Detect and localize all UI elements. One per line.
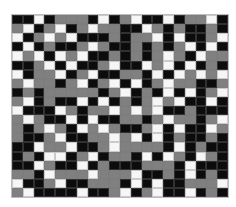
grid-cell <box>98 170 109 179</box>
grid-cell <box>185 79 196 88</box>
grid-cell <box>163 70 174 79</box>
grid-cell <box>23 33 34 42</box>
grid-cell <box>152 161 163 170</box>
grid-cell <box>66 179 77 188</box>
grid-cell <box>152 15 163 24</box>
grid-cell <box>217 79 228 88</box>
grid-cell <box>55 188 66 197</box>
grid-cell <box>131 133 142 142</box>
grid-cell <box>174 124 185 133</box>
grid-cell <box>109 88 120 97</box>
grid-cell <box>55 33 66 42</box>
grid-cell <box>142 42 153 51</box>
grid-cell <box>120 133 131 142</box>
grid-cell <box>163 188 174 197</box>
grid-cell <box>174 142 185 151</box>
grid-cell <box>88 70 99 79</box>
grid-cell <box>206 124 217 133</box>
grid-cell <box>185 161 196 170</box>
grid-cell <box>206 24 217 33</box>
grid-cell <box>98 133 109 142</box>
grid-cell <box>120 42 131 51</box>
grid-cell <box>34 88 45 97</box>
grid-cell <box>163 179 174 188</box>
grid-cell <box>66 133 77 142</box>
grid-cell <box>120 142 131 151</box>
grid-cell <box>152 51 163 60</box>
grid-cell <box>88 188 99 197</box>
grid-cell <box>196 106 207 115</box>
grid-cell <box>142 161 153 170</box>
grid-cell <box>55 179 66 188</box>
grid-cell <box>77 124 88 133</box>
grid-cell <box>55 115 66 124</box>
grid-cell <box>120 115 131 124</box>
grid-cell <box>98 24 109 33</box>
grid-cell <box>152 88 163 97</box>
grid-cell <box>12 115 23 124</box>
grid-cell <box>152 106 163 115</box>
grid-cell <box>77 24 88 33</box>
grid-cell <box>196 24 207 33</box>
grid-cell <box>185 106 196 115</box>
grid-cell <box>174 133 185 142</box>
grid-cell <box>66 161 77 170</box>
grid-cell <box>206 161 217 170</box>
grid-cell <box>23 24 34 33</box>
grid-cell <box>44 115 55 124</box>
grid-cell <box>23 42 34 51</box>
grid-cell <box>120 33 131 42</box>
grid-cell <box>120 88 131 97</box>
grid-cell <box>206 70 217 79</box>
grid-cell <box>109 152 120 161</box>
grid-cell <box>196 179 207 188</box>
grid-cell <box>88 179 99 188</box>
grid-cell <box>142 188 153 197</box>
grid-cell <box>152 70 163 79</box>
grid-cell <box>185 61 196 70</box>
grid-cell <box>196 133 207 142</box>
grid-cell <box>217 188 228 197</box>
grid-cell <box>217 24 228 33</box>
grid-cell <box>109 179 120 188</box>
grid-cell <box>44 152 55 161</box>
grid-cell <box>163 15 174 24</box>
grid-cell <box>174 170 185 179</box>
grid-cell <box>217 106 228 115</box>
grid-cell <box>88 61 99 70</box>
grid-cell <box>185 170 196 179</box>
grid-cell <box>217 51 228 60</box>
grid-cell <box>206 33 217 42</box>
grid-cell <box>66 15 77 24</box>
grid-cell <box>77 106 88 115</box>
grid-cell <box>217 33 228 42</box>
grid-cell <box>12 179 23 188</box>
grid-cell <box>44 24 55 33</box>
grid-cell <box>12 170 23 179</box>
grid-cell <box>174 115 185 124</box>
grid-cell <box>120 70 131 79</box>
grid-cell <box>196 170 207 179</box>
grid-cell <box>163 61 174 70</box>
grid-cell <box>88 142 99 151</box>
grid-cell <box>34 106 45 115</box>
grid-cell <box>66 97 77 106</box>
grid-cell <box>131 42 142 51</box>
grid-cell <box>12 24 23 33</box>
grid-cell <box>77 188 88 197</box>
grid-cell <box>66 188 77 197</box>
grid-cell <box>163 161 174 170</box>
grid-cell <box>66 33 77 42</box>
grid-cell <box>131 152 142 161</box>
grid-cell <box>142 70 153 79</box>
grid-cell <box>142 24 153 33</box>
grid-cell <box>174 61 185 70</box>
grid-cell <box>185 24 196 33</box>
grid-cell <box>44 42 55 51</box>
grid-cell <box>109 79 120 88</box>
grid-cell <box>44 61 55 70</box>
grid-cell <box>196 142 207 151</box>
grid-cell <box>98 42 109 51</box>
grid-cell <box>23 142 34 151</box>
grid-cell <box>12 106 23 115</box>
